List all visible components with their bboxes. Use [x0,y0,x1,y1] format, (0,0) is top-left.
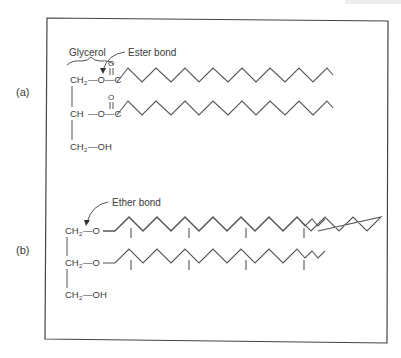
a-row2-carbonyl-o: O [108,93,114,102]
panel-a: (a) Glycerol Ester bond CH 2 —O—C O CH —… [16,47,333,153]
a-row2-link: —O—C [88,108,121,119]
ether-chain-2-methyls [131,260,304,270]
panel-b: (b) Ether bond CH 2 —O CH 2 —O CH 2 —OH [16,197,381,301]
ester-chain-2 [117,101,333,115]
a-row1-carbonyl-o: O [108,59,114,68]
a-row2-ch: CH [70,108,84,119]
lipid-structure-diagram: (a) Glycerol Ester bond CH 2 —O—C O CH —… [0,0,401,358]
b-row3-ch: CH [65,289,79,300]
a-row3-ch: CH [70,141,84,152]
a-row1-ch: CH [70,74,84,85]
ether-chain-2 [103,249,325,263]
ether-bond-label: Ether bond [112,197,161,208]
b-row2-link: —O [83,257,100,268]
scan-artifact [345,0,401,4]
a-row1-link: —O—C [88,74,121,85]
panel-a-label: (a) [16,86,29,98]
b-row2-ch: CH [65,257,79,268]
b-row1-link: —O [83,225,100,236]
ester-chain-1 [117,68,333,82]
ether-chain-1b [103,217,325,231]
a-row3-link: —OH [88,141,112,152]
b-row3-link: —OH [83,289,107,300]
ether-chain-1-methyls [131,228,304,238]
glycerol-label: Glycerol [69,47,106,58]
ester-bond-label: Ester bond [128,47,176,58]
ether-arrow [87,202,108,222]
panel-b-label: (b) [16,244,29,256]
b-row1-ch: CH [65,225,79,236]
